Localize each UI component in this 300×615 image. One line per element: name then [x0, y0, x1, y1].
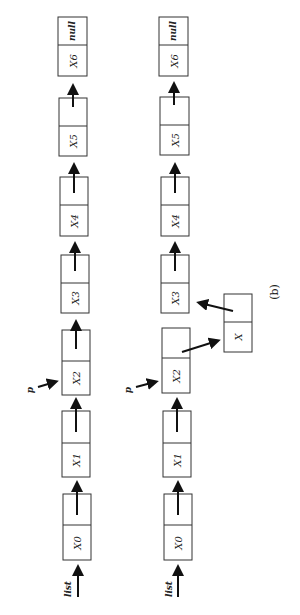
node-value: X5	[68, 134, 79, 148]
p-pointer-arrow	[136, 382, 155, 387]
node-value: X4	[69, 214, 80, 228]
figure-caption: (b)	[268, 284, 281, 300]
node-x2: X2	[162, 328, 190, 393]
linked-list-insertion-diagram: X0 X1 X2 X3 X4	[0, 0, 300, 615]
node-value: X1	[71, 453, 82, 467]
node-value: X0	[72, 536, 83, 551]
node-value: X	[233, 333, 244, 342]
list-head-label: list	[63, 580, 73, 597]
null-pointer-label: null	[168, 20, 178, 41]
bottom-list: X0 X1 X2 X3 X4	[123, 17, 252, 597]
node-value: X1	[172, 453, 183, 467]
p-pointer-label: p	[123, 386, 133, 393]
list-head-label: list	[164, 580, 174, 597]
node-value: X6	[169, 54, 180, 69]
node-value: X2	[171, 369, 182, 383]
node-value: X4	[170, 214, 181, 228]
node-value: X3	[70, 291, 81, 305]
node-value: X5	[170, 133, 181, 147]
null-pointer-label: null	[67, 20, 77, 41]
node-x6: X6 null	[159, 17, 188, 76]
node-x5: X5	[160, 97, 189, 155]
node-x6: X6 null	[58, 17, 87, 76]
p-pointer-arrow	[38, 382, 55, 387]
node-value: X3	[170, 291, 181, 305]
inserted-node-x: X	[224, 294, 252, 352]
node-value: X2	[71, 371, 82, 385]
node-value: X0	[173, 536, 184, 551]
node-value: X6	[68, 54, 79, 69]
top-list: X0 X1 X2 X3 X4	[25, 17, 91, 597]
p-pointer-label: p	[25, 386, 35, 393]
